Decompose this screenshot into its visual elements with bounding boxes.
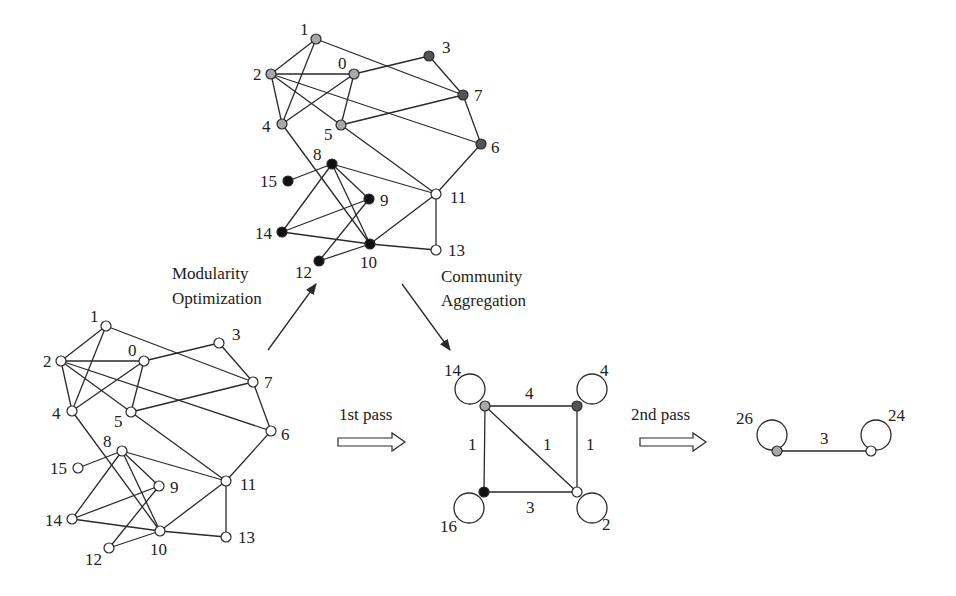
original-node-0 [139,356,149,366]
original-edge-6-11 [226,431,271,481]
original-node-label-12: 12 [85,550,102,569]
second-pass-self-loop [861,420,891,450]
partitioned-node-5 [336,120,346,130]
modularity-label-2: Optimization [172,289,262,308]
partitioned-node-13 [431,245,441,255]
partitioned-node-11 [431,189,441,199]
first-pass-edge-weight: 4 [525,384,534,403]
original-node-13 [221,532,231,542]
first-pass-edge-weight: 3 [526,498,535,517]
original-edge-5-7 [131,382,253,412]
second-pass-self-loop-weight: 26 [736,409,753,428]
original-node-8 [117,446,127,456]
partitioned-node-label-3: 3 [442,38,451,57]
original-node-3 [214,338,224,348]
partitioned-node-14 [277,227,287,237]
original-node-label-6: 6 [281,425,290,444]
original-node-label-2: 2 [43,352,52,371]
first-pass-community-node [572,401,582,411]
original-node-12 [104,543,114,553]
partitioned-node-1 [311,34,321,44]
second-pass-community-node [866,446,876,456]
partitioned-edge-6-11 [436,144,481,194]
partitioned-node-label-7: 7 [474,86,483,105]
original-graph: 0123456789101112131415 [43,307,290,569]
partitioned-edge-5-7 [341,95,463,125]
first-pass-edge [484,406,485,492]
original-node-1 [101,321,111,331]
first-pass-community-node [572,487,582,497]
original-node-label-11: 11 [240,475,256,494]
first-pass-edge-weight: 1 [468,435,477,454]
partitioned-node-6 [476,139,486,149]
partitioned-node-9 [364,194,374,204]
partitioned-node-12 [314,256,324,266]
first-pass-self-loop-weight: 14 [444,361,462,380]
original-node-label-8: 8 [103,432,112,451]
partitioned-node-8 [327,159,337,169]
original-node-10 [155,526,165,536]
first-pass-self-loop-weight: 2 [602,515,611,534]
partitioned-node-label-11: 11 [450,188,466,207]
first-pass-edge [485,406,577,492]
aggregation-label-1: Community [441,267,523,286]
modularity-label-1: Modularity [172,264,249,283]
partitioned-node-label-4: 4 [262,117,271,136]
original-edge-14-10 [72,519,160,531]
partitioned-edge-14-10 [282,232,370,244]
second-pass-label: 2nd pass [631,405,690,424]
original-node-label-7: 7 [264,373,273,392]
partitioned-node-label-15: 15 [260,172,277,191]
aggregation-label-2: Aggregation [441,291,526,310]
partitioned-node-label-5: 5 [324,125,333,144]
partitioned-edge-10-13 [370,244,436,250]
partitioned-node-2 [266,69,276,79]
partitioned-node-label-9: 9 [380,191,389,210]
partitioned-edge-5-11 [341,125,436,194]
original-node-14 [67,514,77,524]
original-node-label-14: 14 [45,511,63,530]
original-node-label-5: 5 [114,412,123,431]
partitioned-node-label-0: 0 [338,54,347,73]
modularity-arrow [268,284,316,350]
second-pass-edge-weight: 3 [820,429,829,448]
first-pass-self-loop-weight: 4 [600,361,609,380]
partitioned-node-label-14: 14 [255,224,273,243]
original-edge-10-13 [160,531,226,537]
partitioned-node-label-12: 12 [295,263,312,282]
original-node-5 [126,407,136,417]
first-pass-graph: 41113144162 [440,361,611,536]
partitioned-graph: 0123456789101112131415 [253,20,500,282]
partitioned-node-10 [365,239,375,249]
first-pass-arrow-icon [338,433,405,451]
original-node-label-13: 13 [238,528,255,547]
second-pass-self-loop-weight: 24 [888,406,906,425]
original-node-7 [248,377,258,387]
partitioned-node-0 [349,69,359,79]
partitioned-node-3 [424,51,434,61]
partitioned-node-label-1: 1 [300,20,309,39]
partitioned-node-label-8: 8 [313,145,322,164]
second-pass-arrow-icon [640,433,706,451]
original-node-label-15: 15 [50,459,67,478]
partitioned-node-15 [283,176,293,186]
original-node-11 [221,476,231,486]
first-pass-edge-weight: 1 [586,435,595,454]
partitioned-edge-2-5 [271,74,341,125]
partitioned-edge-0-3 [354,56,429,74]
original-edge-0-3 [144,343,219,361]
original-node-label-9: 9 [170,478,179,497]
original-node-label-3: 3 [232,325,241,344]
original-node-6 [266,426,276,436]
second-pass-self-loop [757,420,787,450]
original-node-label-0: 0 [128,341,137,360]
first-pass-self-loop [454,493,484,523]
original-node-2 [56,356,66,366]
partitioned-node-7 [458,90,468,100]
original-node-15 [73,463,83,473]
partitioned-node-4 [277,119,287,129]
partitioned-node-label-10: 10 [360,253,377,272]
original-node-4 [67,406,77,416]
original-edge-2-5 [61,361,131,412]
second-pass-community-node [772,446,782,456]
